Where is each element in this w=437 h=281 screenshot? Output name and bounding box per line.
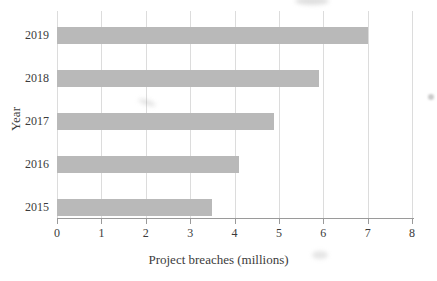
x-axis-tick-mark	[412, 219, 413, 224]
x-axis-tick-mark	[146, 219, 147, 224]
y-axis-category-label: 2018	[0, 70, 49, 87]
x-axis-tick-label: 0	[42, 226, 72, 240]
x-axis-tick-mark	[279, 219, 280, 224]
x-axis-tick-mark	[323, 219, 324, 224]
x-axis-tick-label: 8	[397, 226, 427, 240]
y-axis-category-label: 2017	[0, 113, 49, 130]
photo-smudge-artifact	[428, 94, 434, 100]
gridline	[368, 11, 369, 218]
bar-2017	[57, 113, 274, 130]
x-axis-tick-label: 6	[308, 226, 338, 240]
x-axis-tick-label: 2	[131, 226, 161, 240]
bar-chart: Year 01234567820192018201720162015 Proje…	[0, 0, 437, 281]
x-axis-tick-mark	[101, 219, 102, 224]
x-axis-tick-label: 7	[353, 226, 383, 240]
x-axis-tick-label: 3	[175, 226, 205, 240]
x-axis-tick-mark	[368, 219, 369, 224]
photo-smudge-artifact	[295, 0, 329, 5]
x-axis-tick-mark	[57, 219, 58, 224]
x-axis-title: Project breaches (millions)	[30, 252, 407, 268]
y-axis-category-label: 2016	[0, 156, 49, 173]
photo-smudge-artifact	[138, 97, 157, 107]
bar-2016	[57, 156, 239, 173]
y-axis-category-label: 2019	[0, 27, 49, 44]
x-axis-line	[57, 218, 414, 219]
y-axis-category-label: 2015	[0, 199, 49, 216]
x-axis-tick-label: 5	[264, 226, 294, 240]
bar-2018	[57, 70, 319, 87]
x-axis-tick-mark	[235, 219, 236, 224]
bar-2015	[57, 199, 212, 216]
x-axis-tick-mark	[190, 219, 191, 224]
gridline	[412, 11, 413, 218]
x-axis-tick-label: 4	[220, 226, 250, 240]
bar-2019	[57, 27, 368, 44]
x-axis-tick-label: 1	[86, 226, 116, 240]
